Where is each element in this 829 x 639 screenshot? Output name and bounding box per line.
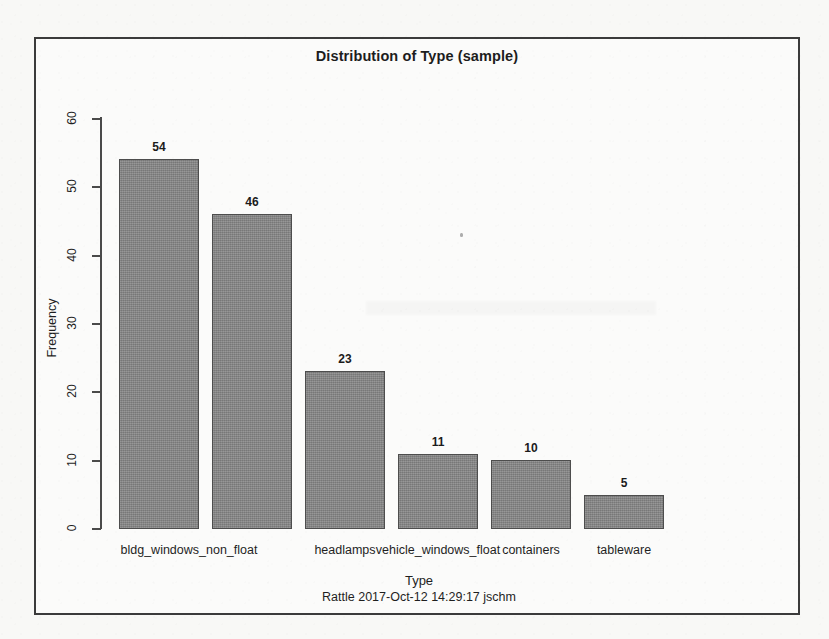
y-tick-20	[92, 391, 101, 393]
bar-value-tableware: 5	[584, 476, 664, 490]
bar-tableware	[584, 495, 664, 529]
x-tick-label-tableware: tableware	[564, 543, 684, 557]
y-tick-label-60: 60	[65, 98, 79, 138]
x-tick-label-bldg-windows-non-float: bldg_windows_non_float	[89, 543, 289, 557]
bar-headlamps	[305, 371, 385, 529]
y-axis-label: Frequency	[45, 248, 59, 408]
y-tick-50	[92, 186, 101, 188]
bar-value-2: 46	[212, 195, 292, 209]
y-tick-label-30: 30	[65, 303, 79, 343]
scan-artifact-speck	[460, 233, 463, 237]
y-tick-60	[92, 118, 101, 120]
y-tick-label-50: 50	[65, 166, 79, 206]
rattle-timestamp-footer: Rattle 2017-Oct-12 14:29:17 jschm	[36, 590, 802, 604]
y-tick-label-40: 40	[65, 235, 79, 275]
y-tick-label-0-wrap: 0	[52, 521, 92, 535]
bar-bldg-windows-non-float	[119, 159, 199, 529]
x-axis-label: Type	[36, 573, 802, 588]
bar-value-vehicle-windows-float: 11	[398, 435, 478, 449]
y-tick-0	[92, 528, 101, 530]
scan-artifact-smudge	[366, 301, 656, 315]
bar-value-headlamps: 23	[305, 352, 385, 366]
plot-area: 60 50 40 30 20 10 0 Frequency 54	[36, 39, 802, 617]
bar-value-bldg-windows-non-float: 54	[119, 140, 199, 154]
y-tick-label-10: 10	[65, 440, 79, 480]
y-tick-30	[92, 323, 101, 325]
bar-vehicle-windows-float	[398, 454, 478, 529]
y-tick-label-20: 20	[65, 371, 79, 411]
y-tick-label-60-wrap: 60	[52, 111, 92, 125]
bar-value-containers: 10	[491, 441, 571, 455]
bar-2	[212, 214, 292, 529]
page-background: Distribution of Type (sample) 60 50 40	[0, 0, 829, 639]
y-tick-label-10-wrap: 10	[52, 453, 92, 467]
y-tick-40	[92, 255, 101, 257]
y-tick-label-0: 0	[65, 508, 79, 548]
bar-containers	[491, 460, 571, 529]
y-tick-10	[92, 460, 101, 462]
y-tick-label-50-wrap: 50	[52, 179, 92, 193]
plot-frame: Distribution of Type (sample) 60 50 40	[34, 37, 800, 615]
